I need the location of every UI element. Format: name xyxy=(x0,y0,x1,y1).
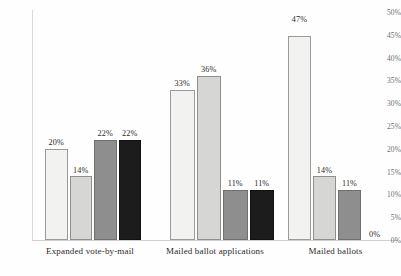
bar-rect[interactable] xyxy=(223,190,248,240)
bar-value-label: 47% xyxy=(292,15,307,24)
bar-item[interactable]: 47% xyxy=(288,36,311,240)
bar-value-label: 0% xyxy=(369,230,380,239)
category-label: Mailed ballot applications xyxy=(155,246,275,256)
bar-value-label: 20% xyxy=(49,138,64,147)
bar-item[interactable]: 14% xyxy=(70,36,93,240)
bars-container: 47%14%11%0% xyxy=(288,36,386,240)
bar-rect[interactable] xyxy=(338,190,361,240)
bar-rect[interactable] xyxy=(313,176,336,240)
bar-rect[interactable] xyxy=(45,149,68,240)
bar-item[interactable]: 36% xyxy=(197,36,222,240)
bar-item[interactable]: 0% xyxy=(363,36,386,240)
y-axis-tick-50: 50% xyxy=(373,8,401,17)
y-axis-line xyxy=(32,10,33,241)
bar-item[interactable]: 11% xyxy=(338,36,361,240)
bar-item[interactable]: 22% xyxy=(94,36,117,240)
bars-container: 33%36%11%11% xyxy=(170,36,274,240)
bar-rect[interactable] xyxy=(119,140,142,240)
bar-value-label: 14% xyxy=(73,166,88,175)
bar-value-label: 11% xyxy=(254,179,269,188)
bar-group: 33%36%11%11% xyxy=(170,36,274,240)
bar-value-label: 36% xyxy=(201,65,216,74)
bar-item[interactable]: 20% xyxy=(45,36,68,240)
bar-rect[interactable] xyxy=(70,176,93,240)
x-axis-line xyxy=(32,240,398,241)
bar-item[interactable]: 22% xyxy=(119,36,142,240)
bar-chart: 50%45%40%35%30%25%20%15%10%5%0% 20%14%22… xyxy=(0,0,401,276)
bar-item[interactable]: 11% xyxy=(223,36,248,240)
bar-item[interactable]: 11% xyxy=(250,36,275,240)
category-label: Expanded vote-by-mail xyxy=(30,246,150,256)
bar-group: 47%14%11%0% xyxy=(288,36,386,240)
bar-rect[interactable] xyxy=(197,76,222,240)
bar-value-label: 22% xyxy=(98,129,113,138)
category-label: Mailed ballots xyxy=(270,246,401,256)
bar-group: 20%14%22%22% xyxy=(45,36,141,240)
bar-value-label: 33% xyxy=(175,79,190,88)
bar-item[interactable]: 33% xyxy=(170,36,195,240)
bar-value-label: 22% xyxy=(122,129,137,138)
bar-rect[interactable] xyxy=(170,90,195,240)
bar-value-label: 14% xyxy=(317,166,332,175)
bar-rect[interactable] xyxy=(94,140,117,240)
bar-rect[interactable] xyxy=(250,190,275,240)
bar-rect[interactable] xyxy=(288,36,311,240)
bar-value-label: 11% xyxy=(228,179,243,188)
bar-item[interactable]: 14% xyxy=(313,36,336,240)
bar-value-label: 11% xyxy=(342,179,357,188)
bars-container: 20%14%22%22% xyxy=(45,36,141,240)
